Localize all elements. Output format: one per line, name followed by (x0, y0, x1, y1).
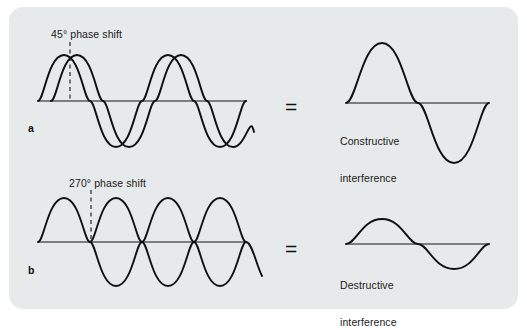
panel-a-result-label: Constructive interference (340, 110, 400, 209)
panel-b-result-label-line1: Destructive (340, 279, 397, 291)
panel-b-equals-sign: = (285, 238, 297, 259)
panel-a-phase-shift-label: 45° phase shift (51, 28, 122, 40)
panel-b-input-group (38, 190, 262, 286)
panel-a-input-group (38, 42, 254, 147)
panel-a-result-label-line2: interference (340, 172, 400, 184)
panel-b-letter: b (28, 264, 34, 276)
panel-a-equals-sign: = (285, 96, 297, 117)
panel-b-phase-shift-label: 270° phase shift (69, 177, 146, 189)
panel-a-result-label-line1: Constructive (340, 135, 400, 147)
panel-a-letter: a (28, 122, 34, 134)
panel-b-result-label: Destructive interference (340, 254, 397, 330)
panel-b-result-label-line2: interference (340, 316, 397, 328)
